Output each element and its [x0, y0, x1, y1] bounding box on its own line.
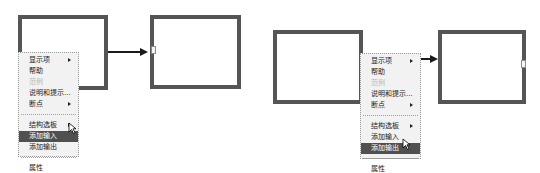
source-node[interactable]	[273, 30, 363, 104]
menu-item-label: 范例	[371, 79, 385, 87]
menu-item-show-items[interactable]: 显示项	[361, 56, 420, 67]
menu-item-label: 添加输出	[371, 144, 399, 152]
menu-separator	[21, 157, 76, 159]
target-node[interactable]	[438, 30, 526, 104]
menu-item-label: 显示项	[371, 57, 392, 65]
menu-item-label: 断点	[29, 100, 43, 108]
menu-item-label: 添加输入	[371, 133, 399, 141]
menu-item-label: 帮助	[371, 68, 385, 76]
menu-separator	[363, 158, 418, 160]
menu-item-help[interactable]: 帮助	[361, 67, 420, 78]
submenu-arrow-icon	[410, 59, 413, 63]
submenu-arrow-icon	[68, 102, 71, 106]
menu-item-breakpoint[interactable]: 断点	[19, 99, 78, 110]
mouse-cursor-icon	[68, 122, 77, 134]
menu-item-properties[interactable]: 属性	[361, 164, 420, 173]
menu-item-label: 范例	[29, 78, 43, 86]
menu-separator	[363, 115, 418, 117]
menu-item-help[interactable]: 帮助	[19, 66, 78, 77]
menu-item-description-tips[interactable]: 说明和提示...	[19, 88, 78, 99]
menu-item-label: 说明和提示...	[29, 89, 71, 97]
submenu-arrow-icon	[410, 124, 413, 128]
menu-item-show-items[interactable]: 显示项	[19, 55, 78, 66]
output-terminal[interactable]	[521, 60, 526, 68]
context-menu: 显示项 帮助 范例 说明和提示... 断点 结构选板 添加输入 添加输出 属性	[18, 52, 79, 157]
submenu-arrow-icon	[68, 58, 71, 62]
wire[interactable]	[108, 51, 141, 53]
menu-item-breakpoint[interactable]: 断点	[361, 100, 420, 111]
menu-item-add-output[interactable]: 添加输出	[361, 143, 420, 154]
menu-item-examples: 范例	[361, 78, 420, 89]
menu-separator	[21, 114, 76, 116]
menu-item-properties[interactable]: 属性	[19, 163, 78, 173]
wire-arrow-icon	[140, 48, 148, 56]
menu-item-add-output[interactable]: 添加输出	[19, 142, 78, 153]
menu-item-label: 帮助	[29, 67, 43, 75]
menu-item-description-tips[interactable]: 说明和提示...	[361, 89, 420, 100]
menu-item-label: 属性	[29, 164, 43, 172]
menu-item-label: 属性	[371, 165, 385, 173]
wire-arrow-icon	[430, 55, 438, 63]
context-menu: 显示项 帮助 范例 说明和提示... 断点 结构选板 添加输入 添加输出 属性	[360, 53, 421, 159]
menu-item-label: 添加输出	[29, 143, 57, 151]
mouse-cursor-icon	[402, 138, 411, 150]
menu-item-label: 断点	[371, 101, 385, 109]
menu-item-add-input[interactable]: 添加输入	[361, 132, 420, 143]
target-node[interactable]	[150, 15, 241, 89]
submenu-arrow-icon	[410, 103, 413, 107]
menu-item-label: 说明和提示...	[371, 90, 413, 98]
menu-item-structures-palette[interactable]: 结构选板	[361, 121, 420, 132]
menu-item-label: 显示项	[29, 56, 50, 64]
menu-item-label: 结构选板	[371, 122, 399, 130]
menu-item-examples: 范例	[19, 77, 78, 88]
menu-item-label: 添加输入	[29, 132, 57, 140]
panel-right: 显示项 帮助 范例 说明和提示... 断点 结构选板 添加输入 添加输出 属性	[270, 0, 540, 173]
input-terminal[interactable]	[151, 46, 156, 54]
panel-left: 显示项 帮助 范例 说明和提示... 断点 结构选板 添加输入 添加输出 属性	[0, 0, 270, 173]
menu-item-label: 结构选板	[29, 121, 57, 129]
